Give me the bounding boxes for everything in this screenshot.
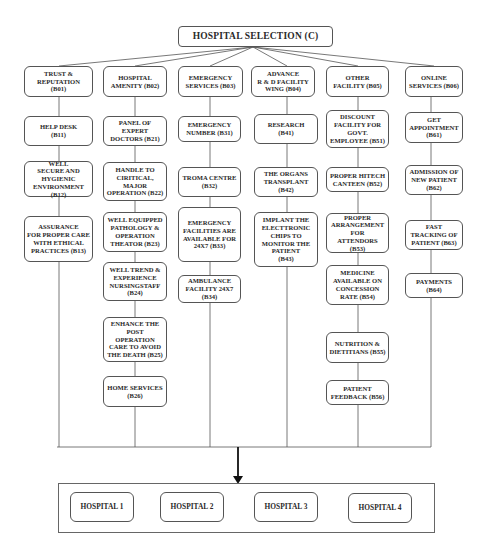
subcriterion-b25: ENHANCE THE POST OPERATION CARE TO AVOID… [103,317,167,362]
subcriterion-b24: WELL TREND & EXPERIENCE NURSINGSTAFF (B2… [103,262,167,301]
subcriterion-b62: ADMISSION OF NEW PATIENT (B62) [405,165,463,195]
subcriterion-b12: WELL SECURE AND HYGIENIC ENVIRONMENT (B1… [24,161,93,197]
criterion-b04: ADVANCE R & D FACILITY WING (B04) [251,66,315,97]
subcriterion-b34: AMBULANCE FACILITY 24X7 (B34) [178,275,241,303]
criterion-b06: ONLINE SERVICES (B06) [405,66,463,97]
subcriterion-b56: PATIENT FEEDBACK (B56) [326,380,389,405]
subcriterion-b51: DISCOUNT FACILITY FOR GOVT. EMPLOYEE (B5… [326,110,389,148]
subcriterion-b43: IMPLANT THE ELECTTRONIC CHIPS TO MONITOR… [254,212,318,267]
criterion-b02: HOSPITAL AMENITY (B02) [103,66,167,97]
subcriterion-b63: FAST TRACKING OF PATIENT (B63) [405,220,463,250]
subcriterion-b31: EMERGENCY NUMBER (B31) [178,116,241,142]
alternative-hospital-3: HOSPITAL 3 [254,492,318,522]
subcriterion-b22: HANDLE TO CIRITICAL, MAJOR OPERATION (B2… [103,162,167,201]
subcriterion-b52: PROPER HITECH CANTEEN (B52) [326,167,389,192]
subcriterion-b23: WELL EQUIPPED PATHOLOGY & OPERATION THEA… [103,212,167,252]
subcriterion-b32: TROMA CENTRE (B32) [178,167,241,197]
subcriterion-b61: GET APPOINTMENT (B61) [405,112,463,143]
subcriterion-b41: RESEARCH (B41) [254,114,318,144]
criterion-b03: EMERGENCY SERVICES (B03) [178,66,243,97]
subcriterion-b13: ASSURANCE FOR PROPER CARE WITH ETHICAL P… [24,216,93,262]
subcriterion-b11: HELP DESK (B11) [24,116,93,146]
criterion-b05: OTHER FACILITY (B05) [326,66,389,97]
alternative-hospital-2: HOSPITAL 2 [160,492,224,522]
subcriterion-b53: PROPER ARRANGEMENT FOR ATTENDORS (B53) [326,213,389,253]
alternative-hospital-1: HOSPITAL 1 [70,492,134,522]
subcriterion-b64: PAYMENTS (B64) [405,273,463,298]
subcriterion-b54: MEDICINE AVAILABLE ON CONCESSION RATE (B… [326,265,389,305]
subcriterion-b21: PANEL OF EXPERT DOCTORS (B21) [103,116,167,146]
subcriterion-b55: NUTRITION & DIETITIANS (B55) [326,332,389,363]
criterion-b01: TRUST & REPUTATION (B01) [24,66,93,97]
goal-box: HOSPITAL SELECTION (C) [178,26,333,47]
subcriterion-b42: THE ORGANS TRANSPLANT (B42) [254,167,318,197]
alternative-hospital-4: HOSPITAL 4 [348,493,412,523]
subcriterion-b26: HOME SERVICES (B26) [103,376,167,407]
subcriterion-b33: EMERGENCY FACILITIES ARE AVAILABLE FOR 2… [178,207,241,262]
